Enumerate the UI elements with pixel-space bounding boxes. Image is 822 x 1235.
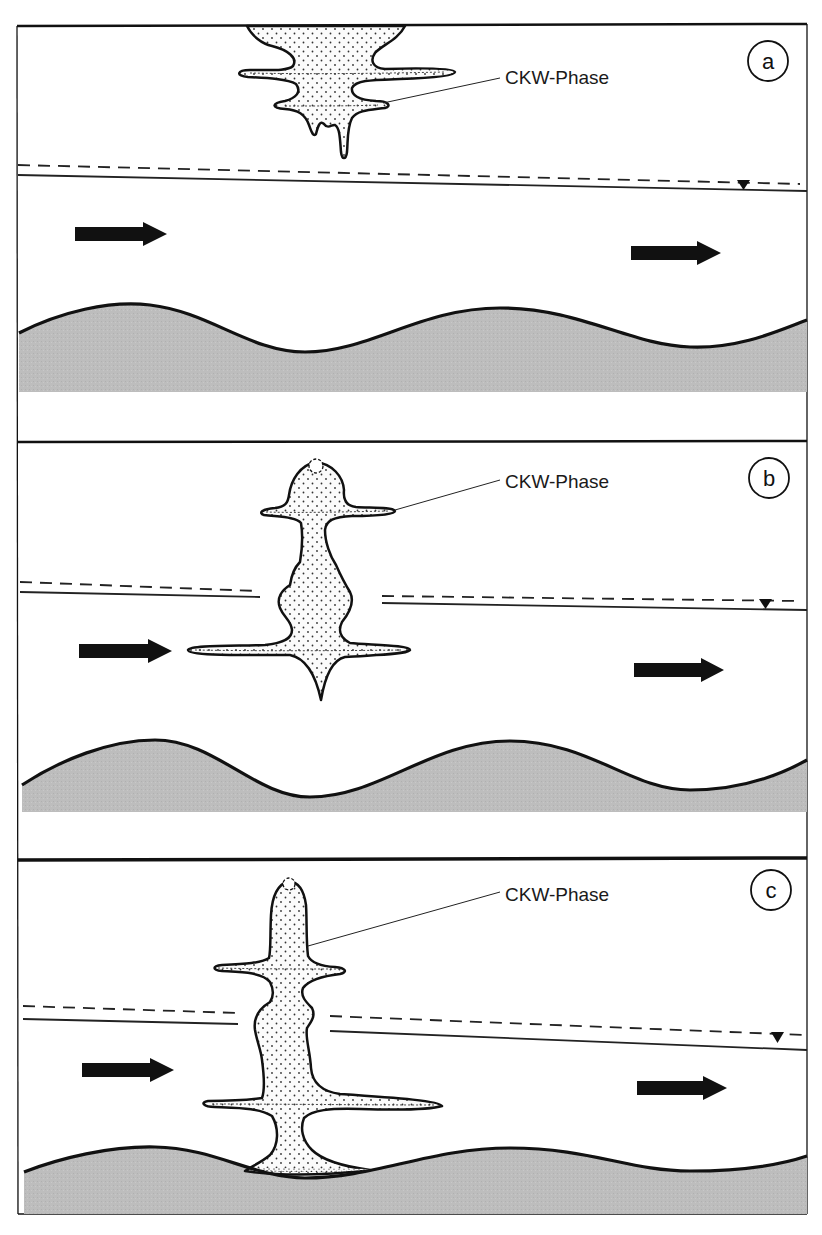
source-dashed-circle [309, 459, 323, 473]
arrow-right-icon [82, 1058, 174, 1082]
water-table-line [23, 1019, 238, 1024]
arrow-right-icon [637, 1076, 727, 1100]
ckw-phase-plume [204, 881, 442, 1175]
ckw-phase-label: CKW-Phase [505, 67, 609, 88]
bedrock [24, 1147, 807, 1214]
ckw-phase-plume [239, 26, 455, 158]
ckw-phase-label: CKW-Phase [505, 471, 609, 492]
label-leader-line [383, 78, 500, 103]
panel-b: CKW-Phase b [20, 458, 807, 812]
arrow-right-icon [631, 241, 721, 265]
contamination-figure: CKW-Phase a CKW-Phase b [0, 0, 822, 1235]
arrow-right-icon [79, 639, 172, 663]
arrow-right-icon [634, 658, 724, 682]
arrow-right-icon [75, 222, 167, 246]
groundwater-level-dashed [382, 596, 800, 601]
water-table-line [330, 1031, 807, 1050]
groundwater-level-dashed [18, 165, 800, 184]
panel-c: CKW-Phase c [23, 870, 807, 1214]
panel-divider [18, 858, 807, 860]
ckw-phase-label: CKW-Phase [505, 884, 609, 905]
label-leader-line [395, 480, 500, 510]
panel-letter: a [762, 49, 775, 74]
ckw-phase-plume [188, 462, 410, 700]
panel-divider [17, 441, 807, 442]
source-dashed-circle [283, 878, 295, 890]
water-table-line [18, 175, 807, 191]
inverted-triangle-icon [737, 180, 750, 190]
panel-letter: b [763, 466, 775, 491]
water-table-line [382, 603, 807, 610]
panel-a: CKW-Phase a [18, 26, 807, 392]
bedrock [22, 740, 807, 812]
inverted-triangle-icon [771, 1032, 784, 1043]
label-leader-line [308, 892, 500, 946]
groundwater-level-dashed [23, 1006, 238, 1013]
groundwater-level-dashed [20, 582, 258, 591]
water-table-line [20, 592, 260, 597]
panel-letter: c [766, 878, 777, 903]
inverted-triangle-icon [759, 599, 772, 609]
groundwater-level-dashed [330, 1016, 805, 1035]
figure-frame [17, 24, 807, 1214]
